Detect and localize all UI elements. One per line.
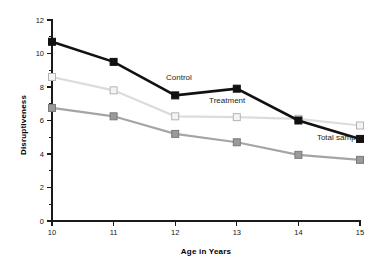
data-point-marker xyxy=(295,151,302,158)
series-line xyxy=(52,42,360,139)
chart-figure: 024681012101112131415 ControlTreatmentTo… xyxy=(0,0,392,269)
data-point-marker xyxy=(110,113,117,120)
data-point-marker xyxy=(357,122,364,129)
data-point-marker xyxy=(172,113,179,120)
x-tick-label: 10 xyxy=(48,228,56,237)
x-axis-title: Age in Years xyxy=(181,247,232,256)
y-tick-label: 2 xyxy=(40,183,44,192)
data-point-marker xyxy=(172,92,179,99)
series-label: Total sample xyxy=(317,133,362,142)
y-tick-label: 12 xyxy=(36,16,44,25)
y-axis-title: Disruptiveness xyxy=(19,95,28,156)
x-tick-label: 11 xyxy=(110,228,118,237)
axis-ticks xyxy=(47,20,360,226)
x-tick-label: 14 xyxy=(294,228,302,237)
line-chart: 024681012101112131415 ControlTreatmentTo… xyxy=(0,0,392,269)
series-label: Treatment xyxy=(209,96,246,105)
data-point-marker xyxy=(233,139,240,146)
series-line xyxy=(52,77,360,126)
series-control xyxy=(49,38,364,142)
data-point-marker xyxy=(295,117,302,124)
data-point-marker xyxy=(110,58,117,65)
data-point-marker xyxy=(49,104,56,111)
y-tick-label: 4 xyxy=(40,150,44,159)
x-tick-label: 12 xyxy=(171,228,179,237)
data-point-marker xyxy=(172,130,179,137)
y-tick-label: 6 xyxy=(40,116,44,125)
series-label: Control xyxy=(166,73,192,82)
series-treatment xyxy=(49,73,364,129)
x-tick-label: 15 xyxy=(356,228,364,237)
data-point-marker xyxy=(233,85,240,92)
y-tick-label: 10 xyxy=(36,49,44,58)
data-point-marker xyxy=(233,114,240,121)
data-series xyxy=(49,38,364,163)
x-tick-label: 13 xyxy=(233,228,241,237)
data-point-marker xyxy=(110,87,117,94)
data-point-marker xyxy=(357,156,364,163)
y-tick-label: 0 xyxy=(40,217,44,226)
data-point-marker xyxy=(49,38,56,45)
data-point-marker xyxy=(49,73,56,80)
y-tick-label: 8 xyxy=(40,83,44,92)
